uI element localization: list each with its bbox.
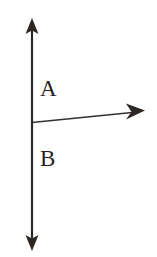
arrow-right-icon	[126, 104, 145, 120]
horizontal-line-shaft	[32, 113, 132, 123]
geometry-figure	[0, 0, 157, 257]
label-b: B	[40, 147, 55, 170]
figure-canvas: A B	[0, 0, 157, 257]
label-a: A	[40, 77, 57, 100]
